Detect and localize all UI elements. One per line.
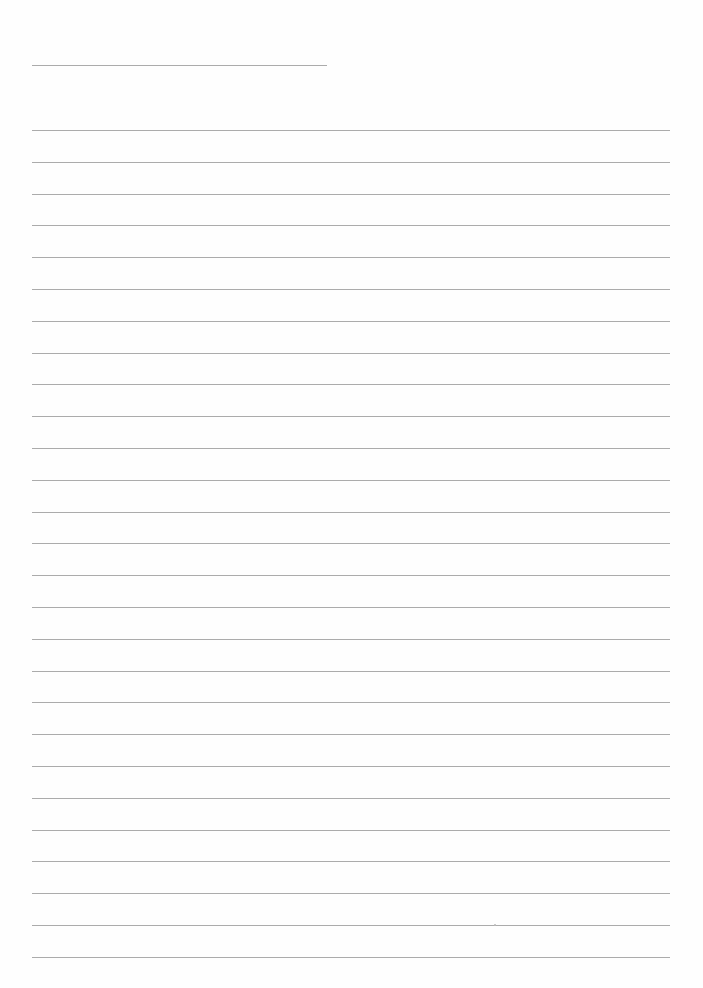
ruled-line: [32, 543, 670, 544]
lined-paper-page: [0, 0, 703, 988]
ruled-line: [32, 702, 670, 703]
paper-speck: [494, 924, 496, 926]
ruled-line: [32, 861, 670, 862]
ruled-line: [32, 130, 670, 131]
ruled-line: [32, 830, 670, 831]
ruled-line: [32, 194, 670, 195]
header-rule-line: [32, 65, 327, 66]
ruled-line: [32, 766, 670, 767]
ruled-line: [32, 162, 670, 163]
ruled-line: [32, 353, 670, 354]
ruled-line: [32, 925, 670, 926]
ruled-line: [32, 257, 670, 258]
ruled-line: [32, 893, 670, 894]
ruled-line: [32, 416, 670, 417]
ruled-line: [32, 798, 670, 799]
ruled-line: [32, 321, 670, 322]
ruled-line: [32, 734, 670, 735]
ruled-line: [32, 384, 670, 385]
ruled-line: [32, 225, 670, 226]
ruled-line: [32, 607, 670, 608]
ruled-line: [32, 289, 670, 290]
ruled-line: [32, 512, 670, 513]
ruled-line: [32, 671, 670, 672]
ruled-line: [32, 639, 670, 640]
ruled-line: [32, 448, 670, 449]
ruled-line: [32, 957, 670, 958]
ruled-line: [32, 575, 670, 576]
ruled-line: [32, 480, 670, 481]
